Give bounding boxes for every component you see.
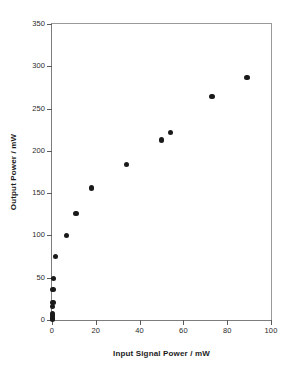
y-axis-tick [47,193,52,194]
y-axis-title: Output Power / mW [9,134,18,210]
x-axis-tick [271,320,272,325]
x-axis-tick [96,320,97,325]
x-axis-tick-label: 100 [265,327,278,335]
y-axis-tick [47,151,52,152]
x-axis-tick-label: 0 [50,327,54,335]
data-point [89,185,94,190]
y-axis-tick-label: 200 [32,147,45,155]
data-point [124,162,129,167]
data-point [64,233,69,238]
data-point [159,137,164,142]
y-axis-tick-label: 50 [36,274,45,282]
figure: 050100150200250300350020406080100 Input … [0,0,296,379]
x-axis-tick-label: 60 [179,327,188,335]
x-axis-tick [183,320,184,325]
data-point [244,75,249,80]
x-axis-tick-label: 80 [223,327,232,335]
plot-area: 050100150200250300350020406080100 [51,23,272,321]
data-point [50,287,55,292]
data-point [73,211,78,216]
x-axis-tick-label: 20 [92,327,101,335]
y-axis-tick-label: 0 [41,316,45,324]
y-axis-tick-label: 300 [32,62,45,70]
y-axis-tick-label: 150 [32,189,45,197]
x-axis-tick-label: 40 [135,327,144,335]
y-axis-tick [47,109,52,110]
data-point [209,94,214,99]
y-axis-tick [47,66,52,67]
x-axis-tick [227,320,228,325]
y-axis-tick-label: 350 [32,20,45,28]
y-axis-tick-label: 100 [32,231,45,239]
data-point [168,130,173,135]
x-axis-tick [140,320,141,325]
data-point [51,276,56,281]
x-axis-title: Input Signal Power / mW [51,349,272,358]
y-axis-tick [47,24,52,25]
y-axis-tick-label: 250 [32,105,45,113]
data-point [53,254,58,259]
data-point [50,300,55,305]
y-axis-tick [47,235,52,236]
